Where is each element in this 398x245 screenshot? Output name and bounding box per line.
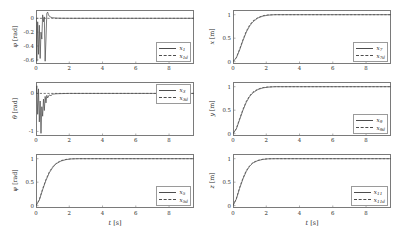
xtick-label: 6	[326, 210, 340, 216]
subplot-theta: 0-1θ [rad]02468x3x3d	[36, 82, 194, 136]
xtick-label: 6	[129, 65, 143, 71]
legend-item-x_3d: x3d	[159, 94, 188, 102]
subplot-phi: 0-0.2-0.4-0.6φ [rad]02468x1x1d	[36, 10, 194, 64]
subplot-y-pos: 10.50y [m]02468x9x9d	[233, 82, 391, 136]
legend-label: x11d	[374, 197, 385, 204]
xtick-label: 4	[96, 65, 110, 71]
legend-label: x5d	[179, 197, 188, 204]
ytick-label: 1	[213, 156, 231, 162]
ytick-label: 1	[213, 12, 231, 18]
ytick-label: 0	[213, 203, 231, 209]
legend-swatch-dashed-line-icon	[356, 127, 373, 128]
legend-phi: x1x1d	[156, 42, 191, 62]
legend-swatch-solid-line-icon	[159, 192, 176, 193]
ytick-label: 0.5	[16, 179, 34, 185]
xtick-label: 2	[259, 210, 273, 216]
xlabel-z-pos: t [s]	[233, 219, 391, 227]
ytick-label: 1	[213, 84, 231, 90]
subplot-x-pos: 10.50x [m]02468x7x7d	[233, 10, 391, 64]
legend-x-pos: x7x7d	[353, 42, 388, 62]
legend-item-x_9: x9	[356, 117, 385, 125]
ytick-label: 0.5	[213, 179, 231, 185]
ytick-label: -1	[16, 128, 34, 134]
xtick-label: 2	[62, 137, 76, 143]
xtick-label: 8	[162, 65, 176, 71]
xtick-label: 4	[293, 65, 307, 71]
legend-item-x_11d: x11d	[354, 196, 385, 204]
xtick-label: 4	[96, 210, 110, 216]
xtick-label: 8	[162, 137, 176, 143]
legend-label: x3d	[179, 95, 188, 102]
figure-canvas: 0-0.2-0.4-0.6φ [rad]02468x1x1d10.50x [m]…	[0, 0, 398, 245]
legend-item-x_1d: x1d	[159, 52, 188, 60]
xtick-label: 0	[226, 65, 240, 71]
ylabel-z-pos: z [m]	[208, 102, 215, 245]
ytick-label: 0	[16, 15, 34, 21]
ytick-label: 0	[213, 131, 231, 137]
xtick-label: 8	[359, 210, 373, 216]
xtick-label: 6	[129, 210, 143, 216]
legend-y-pos: x9x9d	[353, 114, 388, 134]
xtick-label: 2	[259, 65, 273, 71]
ytick-label: 0.5	[213, 107, 231, 113]
legend-swatch-solid-line-icon	[159, 90, 176, 91]
xtick-label: 0	[29, 65, 43, 71]
legend-swatch-solid-line-icon	[356, 48, 373, 49]
legend-item-x_1: x1	[159, 45, 188, 53]
xtick-label: 4	[293, 210, 307, 216]
xtick-label: 6	[129, 137, 143, 143]
xtick-label: 8	[359, 137, 373, 143]
ytick-label: -0.6	[16, 57, 34, 63]
legend-label: x1	[179, 45, 185, 52]
legend-item-x_7: x7	[356, 45, 385, 53]
xlabel-psi: t [s]	[36, 219, 194, 227]
legend-swatch-solid-line-icon	[356, 120, 373, 121]
xtick-label: 6	[326, 65, 340, 71]
legend-z-pos: x11x11d	[351, 186, 388, 206]
xtick-label: 2	[62, 65, 76, 71]
legend-swatch-dashed-line-icon	[159, 55, 176, 56]
legend-swatch-dashed-line-icon	[159, 199, 176, 200]
ytick-label: 0	[16, 203, 34, 209]
xtick-label: 4	[96, 137, 110, 143]
legend-item-x_11: x11	[354, 189, 385, 197]
legend-swatch-solid-line-icon	[354, 192, 371, 193]
legend-label: x9d	[376, 125, 385, 132]
legend-label: x9	[376, 117, 382, 124]
xtick-label: 8	[359, 65, 373, 71]
ytick-label: -0.4	[16, 43, 34, 49]
legend-label: x7	[376, 45, 382, 52]
legend-item-x_7d: x7d	[356, 52, 385, 60]
xtick-label: 2	[259, 137, 273, 143]
xtick-label: 2	[62, 210, 76, 216]
legend-item-x_5: x5	[159, 189, 188, 197]
xtick-label: 0	[29, 137, 43, 143]
ytick-label: 0	[16, 90, 34, 96]
xtick-label: 0	[226, 210, 240, 216]
xtick-label: 6	[326, 137, 340, 143]
legend-theta: x3x3d	[156, 84, 191, 104]
xtick-label: 0	[29, 210, 43, 216]
legend-label: x5	[179, 189, 185, 196]
legend-label: x7d	[376, 53, 385, 60]
legend-item-x_3: x3	[159, 87, 188, 95]
subplot-z-pos: 10.50z [m]02468t [s]x11x11d	[233, 154, 391, 208]
legend-item-x_5d: x5d	[159, 196, 188, 204]
legend-label: x3	[179, 87, 185, 94]
legend-swatch-dashed-line-icon	[354, 199, 371, 200]
legend-item-x_9d: x9d	[356, 124, 385, 132]
ytick-label: 1	[16, 156, 34, 162]
ylabel-psi: ψ [rad]	[11, 102, 18, 245]
legend-psi: x5x5d	[156, 186, 191, 206]
legend-swatch-dashed-line-icon	[356, 55, 373, 56]
ytick-label: 0	[213, 59, 231, 65]
xtick-label: 8	[162, 210, 176, 216]
subplot-psi: 10.50ψ [rad]02468t [s]x5x5d	[36, 154, 194, 208]
xtick-label: 4	[293, 137, 307, 143]
ytick-label: -0.2	[16, 29, 34, 35]
legend-swatch-dashed-line-icon	[159, 97, 176, 98]
legend-swatch-solid-line-icon	[159, 48, 176, 49]
legend-label: x11	[374, 189, 383, 196]
ytick-label: 0.5	[213, 35, 231, 41]
legend-label: x1d	[179, 53, 188, 60]
